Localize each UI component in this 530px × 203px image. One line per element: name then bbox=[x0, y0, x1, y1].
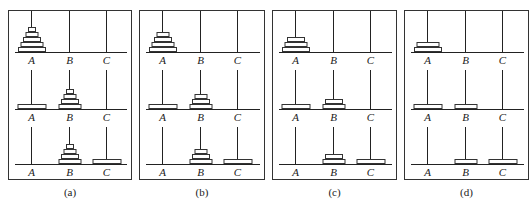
baseline bbox=[411, 109, 524, 110]
peg-label: C bbox=[234, 111, 241, 123]
disk bbox=[189, 159, 212, 164]
disk bbox=[154, 37, 172, 42]
disk bbox=[413, 104, 442, 109]
peg-label: B bbox=[197, 111, 204, 123]
baseline bbox=[279, 52, 392, 53]
peg-label: C bbox=[234, 166, 241, 178]
peg-label: C bbox=[499, 54, 506, 66]
disk bbox=[66, 89, 74, 94]
disk bbox=[63, 149, 76, 154]
peg-c bbox=[106, 70, 107, 109]
peg-label: B bbox=[330, 111, 337, 123]
baseline bbox=[279, 164, 392, 165]
baseline bbox=[146, 109, 260, 110]
disk bbox=[282, 47, 310, 52]
disk bbox=[194, 94, 207, 99]
peg-label: A bbox=[424, 166, 431, 178]
disk bbox=[325, 99, 343, 104]
peg-label: A bbox=[28, 54, 35, 66]
disk bbox=[416, 42, 439, 47]
peg-label: B bbox=[197, 54, 204, 66]
peg-c bbox=[237, 11, 238, 52]
disk bbox=[58, 159, 81, 164]
peg-label: C bbox=[499, 111, 506, 123]
disk bbox=[414, 47, 442, 52]
disk bbox=[356, 159, 385, 164]
peg-label: A bbox=[292, 111, 299, 123]
peg-label: A bbox=[292, 54, 299, 66]
peg-a bbox=[295, 127, 296, 164]
peg-label: C bbox=[367, 111, 374, 123]
peg-label: A bbox=[424, 54, 431, 66]
disk bbox=[192, 154, 210, 159]
panel-caption: (a) bbox=[64, 186, 76, 198]
disk bbox=[151, 42, 174, 47]
peg-label: B bbox=[462, 166, 469, 178]
peg-label: C bbox=[103, 111, 110, 123]
panel-b: ABCABCABC bbox=[139, 10, 265, 180]
peg-c bbox=[106, 11, 107, 52]
disk bbox=[148, 104, 177, 109]
disk bbox=[223, 159, 252, 164]
disk bbox=[63, 94, 76, 99]
baseline bbox=[15, 164, 127, 165]
peg-a bbox=[427, 127, 428, 164]
peg-c bbox=[370, 70, 371, 109]
disk bbox=[61, 99, 79, 104]
disk bbox=[66, 144, 74, 149]
peg-b bbox=[333, 11, 334, 52]
peg-label: C bbox=[367, 54, 374, 66]
peg-a bbox=[162, 127, 163, 164]
panel-caption: (b) bbox=[196, 186, 209, 198]
peg-c bbox=[370, 11, 371, 52]
disk bbox=[149, 47, 177, 52]
disk bbox=[18, 47, 46, 52]
peg-a bbox=[31, 127, 32, 164]
peg-label: C bbox=[234, 54, 241, 66]
peg-label: A bbox=[424, 111, 431, 123]
disk bbox=[454, 104, 477, 109]
baseline bbox=[411, 52, 524, 53]
disk bbox=[194, 149, 207, 154]
disk bbox=[23, 37, 41, 42]
peg-label: B bbox=[197, 166, 204, 178]
panel-caption: (c) bbox=[328, 186, 340, 198]
disk bbox=[28, 27, 36, 32]
disk bbox=[92, 159, 121, 164]
baseline bbox=[279, 109, 392, 110]
disk bbox=[61, 154, 79, 159]
peg-b bbox=[200, 11, 201, 52]
peg-label: B bbox=[66, 54, 73, 66]
disk bbox=[192, 99, 210, 104]
peg-label: B bbox=[66, 166, 73, 178]
disk bbox=[189, 104, 212, 109]
disk bbox=[25, 32, 38, 37]
disk bbox=[17, 104, 46, 109]
panel-d: ABCABCABC bbox=[404, 10, 529, 180]
peg-label: A bbox=[159, 166, 166, 178]
disk bbox=[322, 104, 345, 109]
panel-c: ABCABCABC bbox=[272, 10, 397, 180]
peg-label: A bbox=[28, 111, 35, 123]
panel-caption: (d) bbox=[460, 186, 473, 198]
peg-label: A bbox=[159, 54, 166, 66]
peg-label: A bbox=[28, 166, 35, 178]
peg-label: C bbox=[499, 166, 506, 178]
peg-label: B bbox=[462, 54, 469, 66]
peg-label: C bbox=[103, 166, 110, 178]
baseline bbox=[146, 164, 260, 165]
peg-label: B bbox=[66, 111, 73, 123]
panel-a: ABCABCABC bbox=[8, 10, 132, 180]
baseline bbox=[15, 52, 127, 53]
disk bbox=[322, 159, 345, 164]
baseline bbox=[146, 52, 260, 53]
peg-c bbox=[237, 70, 238, 109]
baseline bbox=[411, 164, 524, 165]
baseline bbox=[15, 109, 127, 110]
peg-label: A bbox=[159, 111, 166, 123]
peg-label: B bbox=[330, 166, 337, 178]
peg-label: A bbox=[292, 166, 299, 178]
peg-label: B bbox=[462, 111, 469, 123]
peg-label: C bbox=[367, 166, 374, 178]
disk bbox=[325, 154, 343, 159]
